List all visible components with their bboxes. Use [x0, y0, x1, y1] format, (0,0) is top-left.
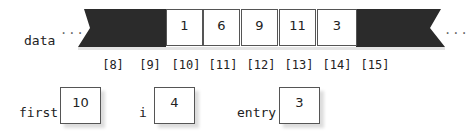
- array-cell-10: 1: [166, 9, 203, 46]
- index-label-13: [13]: [279, 58, 319, 72]
- array-cell-14: 3: [317, 9, 357, 46]
- index-label-10: [10]: [166, 58, 206, 72]
- variable-box-first: 10: [60, 87, 101, 124]
- variable-label-first: first: [19, 105, 58, 120]
- variable-label-entry: entry: [237, 105, 276, 120]
- variable-box-entry: 3: [279, 87, 320, 124]
- index-label-14: [14]: [317, 58, 357, 72]
- index-label-11: [11]: [203, 58, 243, 72]
- index-label-8: [8]: [93, 58, 133, 72]
- index-label-15: [15]: [355, 58, 395, 72]
- index-label-9: [9]: [130, 58, 170, 72]
- variable-label-i: i: [139, 105, 147, 120]
- array-cell-11: 6: [203, 9, 240, 46]
- variable-box-i: 4: [154, 87, 195, 124]
- array-cell-13: 11: [279, 9, 316, 46]
- right-ellipsis: ...: [444, 23, 469, 37]
- array-cell-12: 9: [241, 9, 278, 46]
- index-label-12: [12]: [241, 58, 281, 72]
